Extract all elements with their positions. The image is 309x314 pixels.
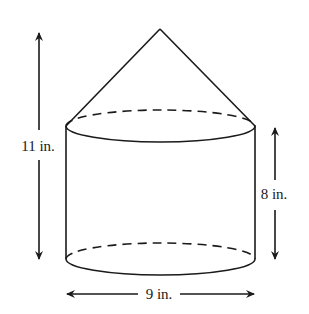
bottom-ellipse-back-dashed <box>66 243 255 259</box>
cylinder-bottom-ellipse <box>66 243 255 275</box>
cone <box>66 29 255 126</box>
top-ellipse-front <box>66 126 255 142</box>
bottom-ellipse-front <box>66 259 255 275</box>
top-ellipse-back-dashed <box>66 110 255 126</box>
cone-cylinder-diagram: 11 in. 8 in. 9 in. <box>0 0 309 314</box>
cylinder-top-ellipse <box>66 110 255 142</box>
diameter-label: 9 in. <box>146 286 173 302</box>
diameter-dimension: 9 in. <box>67 286 254 302</box>
total-height-label: 11 in. <box>21 138 55 154</box>
cylinder-height-dimension: 8 in. <box>261 128 288 259</box>
cylinder-height-label: 8 in. <box>261 186 288 202</box>
cone-right-edge <box>160 29 255 126</box>
total-height-dimension: 11 in. <box>21 33 55 259</box>
